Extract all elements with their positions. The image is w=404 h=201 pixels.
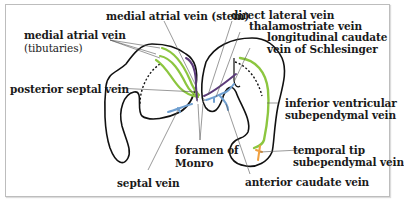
- septal-vein: [168, 104, 192, 112]
- label-medial-atrial-vein-tributaries-note: (tibutaries): [24, 42, 83, 54]
- label-septal-vein: septal vein: [117, 177, 180, 189]
- medial-atrial-tributaries-vein: [156, 48, 199, 97]
- label-vein-of-schlesinger: vein of Schlesinger: [267, 43, 378, 55]
- label-foramen-of-monro-line1: foramen of: [175, 144, 238, 156]
- label-medial-atrial-vein-tributaries: medial atrial vein: [24, 29, 126, 41]
- label-temporal-tip-subependymal-vein: subependymal vein: [293, 156, 404, 168]
- label-medial-atrial-vein-stem: medial atrial vein (stem): [106, 10, 249, 22]
- label-subependymal-vein: subependymal vein: [285, 109, 396, 121]
- label-anterior-caudate-vein: anterior caudate vein: [245, 176, 369, 188]
- label-temporal-tip: temporal tip: [293, 144, 365, 156]
- left-dashed-boundary: [140, 64, 160, 104]
- inferior-ventricular-subependymal-vein: [240, 58, 269, 148]
- label-longitudinal-caudate-vein: longitudinal caudate: [267, 31, 387, 43]
- label-posterior-septal-vein: posterior septal vein: [10, 83, 129, 95]
- temporal-tip-subependymal-vein: [256, 146, 262, 160]
- label-foramen-of-monro-line2: Monro: [175, 157, 213, 169]
- label-inferior-ventricular-vein: inferior ventricular: [285, 97, 397, 109]
